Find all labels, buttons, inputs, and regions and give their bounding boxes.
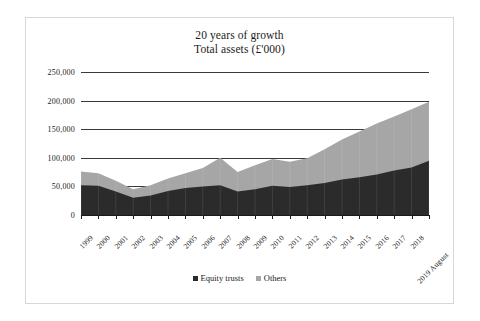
x-tick-label-2010: 2010 [269, 233, 287, 251]
y-tick-label-0: 0 [71, 211, 75, 220]
legend-label: Others [264, 273, 287, 283]
x-tick-2009 [255, 215, 256, 219]
legend-item-equity-trusts: Equity trusts [193, 273, 244, 283]
x-tick-2017 [394, 215, 395, 219]
x-tick-2018 [412, 215, 413, 219]
x-tick-label-1999: 1999 [77, 233, 95, 251]
x-tick-label-2008: 2008 [234, 233, 252, 251]
x-tick-label-2016: 2016 [373, 233, 391, 251]
column-stripes [81, 102, 429, 215]
x-tick-label-2018: 2018 [408, 233, 426, 251]
x-tick-label-2004: 2004 [164, 233, 182, 251]
chart-title-line2: Total assets (£'000) [26, 42, 453, 56]
x-tick-label-2003: 2003 [147, 233, 165, 251]
x-tick-2010 [272, 215, 273, 219]
x-tick-2005 [185, 215, 186, 219]
x-tick-label-2014: 2014 [338, 233, 356, 251]
legend-swatch-icon [256, 276, 261, 281]
x-tick-2013 [325, 215, 326, 219]
y-tick-label-250000: 250,000 [48, 68, 75, 77]
chart-legend: Equity trustsOthers [26, 273, 453, 283]
x-tick-label-2012: 2012 [304, 233, 322, 251]
x-tick-2008 [238, 215, 239, 219]
x-tick-1999 [81, 215, 82, 219]
area-svg [81, 72, 429, 215]
chart-title: 20 years of growth Total assets (£'000) [26, 28, 453, 56]
x-tick-label-2011: 2011 [286, 233, 303, 250]
x-tick-label-2000: 2000 [95, 233, 113, 251]
x-tick-2004 [168, 215, 169, 219]
x-tick-label-2017: 2017 [391, 233, 409, 251]
x-tick-2016 [377, 215, 378, 219]
x-tick-label-2001: 2001 [112, 233, 130, 251]
chart-figure-frame: 20 years of growth Total assets (£'000) … [25, 17, 454, 304]
x-tick-2000 [98, 215, 99, 219]
y-tick-label-100000: 100,000 [48, 153, 75, 162]
plot-area: 250,000200,000150,000100,00050,0000 1999… [81, 72, 429, 215]
legend-label: Equity trusts [201, 273, 244, 283]
stacked-area-series [81, 72, 429, 215]
x-tick-2012 [307, 215, 308, 219]
y-tick-label-150000: 150,000 [48, 125, 75, 134]
x-tick-2011 [290, 215, 291, 219]
x-tick-label-2005: 2005 [182, 233, 200, 251]
x-tick-label-2006: 2006 [199, 233, 217, 251]
y-tick-label-200000: 200,000 [48, 96, 75, 105]
y-tick-label-50000: 50,000 [52, 182, 75, 191]
x-tick-label-2015: 2015 [356, 233, 374, 251]
x-tick-2003 [151, 215, 152, 219]
x-tick-2007 [220, 215, 221, 219]
x-tick-label-2009: 2009 [251, 233, 269, 251]
x-tick-label-2002: 2002 [130, 233, 148, 251]
x-tick-2014 [342, 215, 343, 219]
legend-item-others: Others [256, 273, 287, 283]
x-tick-2001 [116, 215, 117, 219]
x-tick-2002 [133, 215, 134, 219]
legend-swatch-icon [193, 276, 198, 281]
x-tick-2006 [203, 215, 204, 219]
chart-title-line1: 20 years of growth [195, 29, 283, 41]
x-tick-label-2007: 2007 [217, 233, 235, 251]
x-tick-label-2013: 2013 [321, 233, 339, 251]
x-tick-2015 [359, 215, 360, 219]
x-tick-2019-August [429, 215, 430, 219]
